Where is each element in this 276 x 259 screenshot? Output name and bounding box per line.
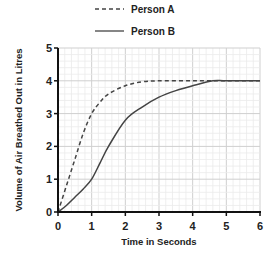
x-tick-label: 6 xyxy=(257,220,263,232)
x-tick-labels: 0123456 xyxy=(55,212,263,232)
y-tick-label: 5 xyxy=(46,42,52,54)
legend: Person A Person B xyxy=(95,4,175,37)
x-tick-label: 3 xyxy=(156,220,162,232)
legend-label-person-a: Person A xyxy=(131,4,175,15)
y-tick-label: 0 xyxy=(46,206,52,218)
x-tick-label: 5 xyxy=(223,220,229,232)
y-tick-label: 2 xyxy=(46,140,52,152)
y-tick-label: 4 xyxy=(46,75,53,87)
x-tick-label: 2 xyxy=(122,220,128,232)
y-tick-labels: 012345 xyxy=(46,42,58,218)
y-axis-label: Volume of Air Breathed Out in Litres xyxy=(13,48,24,211)
legend-label-person-b: Person B xyxy=(131,26,175,37)
x-axis-label: Time in Seconds xyxy=(121,236,196,247)
grid xyxy=(58,48,260,212)
y-tick-label: 3 xyxy=(46,108,52,120)
y-tick-label: 1 xyxy=(46,173,52,185)
line-chart: Person A Person B 0123456 012345 Time in… xyxy=(0,0,276,259)
x-tick-label: 1 xyxy=(89,220,95,232)
x-tick-label: 4 xyxy=(190,220,197,232)
x-tick-label: 0 xyxy=(55,220,61,232)
